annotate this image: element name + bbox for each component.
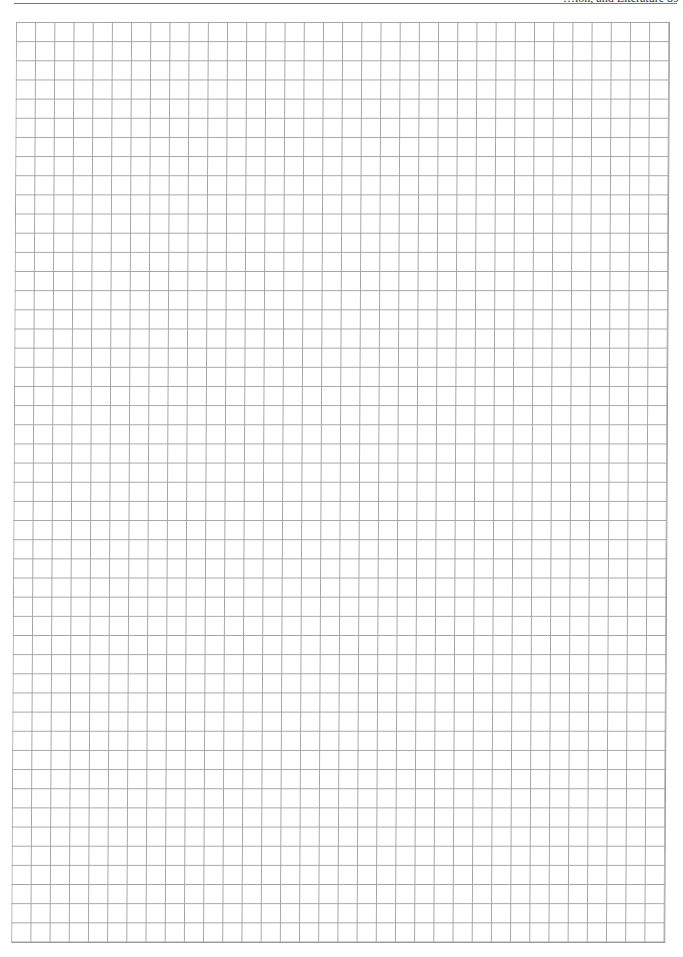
graph-paper-grid <box>11 22 670 943</box>
header-rule <box>14 3 677 4</box>
running-header: …ion, and Literature 89 <box>0 0 683 4</box>
